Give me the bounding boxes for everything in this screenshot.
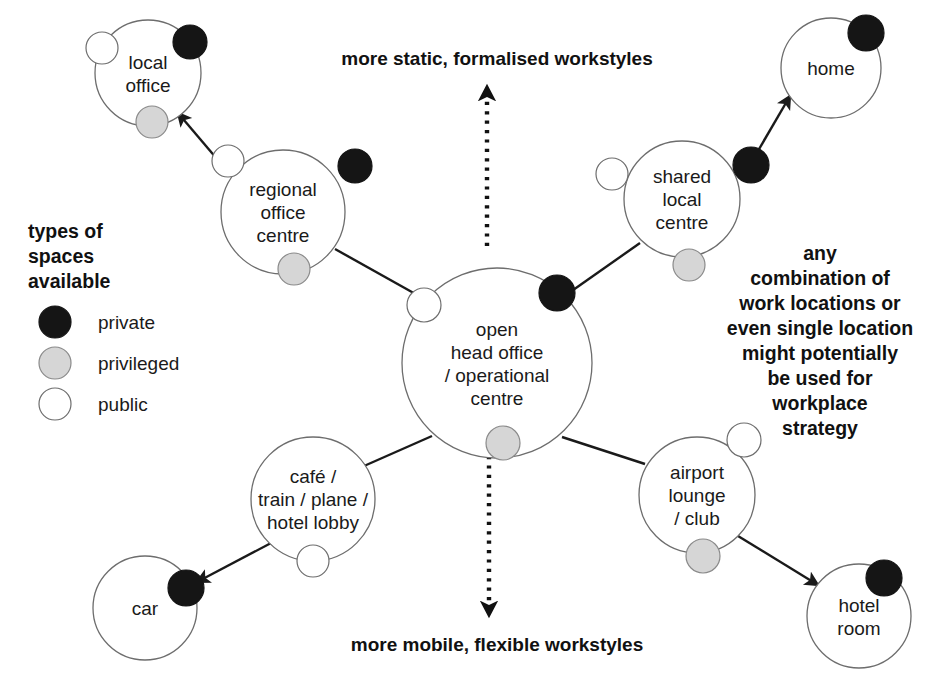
legend-title-line-2: spaces [28,245,94,267]
legend-title-line-3: available [28,270,111,292]
side-note-line-6: be used for [767,367,873,389]
legend-item-private: private [39,306,155,338]
node-label-airport-lounge-club-line-1: airport [670,462,725,483]
node-label-airport-lounge-club-line-2: lounge [668,485,725,506]
connector-centre-to-cafe [364,436,432,466]
side-note-line-7: workplace [771,392,868,414]
space-dot-private-icon [168,570,204,606]
legend-label-private: private [98,312,155,333]
legend: types of spaces available private privil… [28,220,179,420]
node-open-head-office[interactable]: openhead office/ operationalcentre [402,268,592,460]
side-note-line-3: work locations or [738,292,901,314]
connector-regional-to-centre [335,249,419,296]
legend-swatch-privileged-icon [39,347,71,379]
node-hotel-room[interactable]: hotelroom [807,560,911,668]
space-dot-privileged-icon [136,106,168,138]
side-note: anycombination ofwork locations oreven s… [727,242,913,439]
legend-title-line-1: types of [28,220,103,242]
connector-airport-to-hotel [738,536,818,585]
space-dot-private-icon [173,25,207,59]
node-label-shared-local-centre-line-3: centre [656,212,709,233]
node-label-regional-office-centre-line-2: office [260,202,305,223]
legend-item-privileged: privileged [39,347,179,379]
space-dot-public-icon [407,288,441,322]
space-dot-public-icon [86,32,118,64]
node-label-local-office-line-2: office [125,75,170,96]
node-label-cafe-train-plane-hotel-lobby-line-1: café / [290,466,337,487]
node-label-regional-office-centre-line-3: centre [257,225,310,246]
node-label-cafe-train-plane-hotel-lobby-line-3: hotel lobby [267,512,359,533]
diagram-canvas: localofficeregionalofficecentreopenhead … [0,0,941,680]
side-note-line-2: combination of [750,267,890,289]
node-label-open-head-office-line-1: open [476,319,518,340]
node-label-open-head-office-line-4: centre [471,388,524,409]
legend-label-public: public [98,394,148,415]
legend-label-privileged: privileged [98,353,179,374]
space-dot-privileged-icon [686,539,720,573]
node-cafe-train-plane-hotel-lobby[interactable]: café /train / plane /hotel lobby [251,437,375,577]
space-dot-privileged-icon [673,249,705,281]
node-shared-local-centre[interactable]: sharedlocalcentre [596,141,769,281]
node-label-home-line-1: home [807,58,855,79]
node-label-shared-local-centre-line-2: local [662,189,701,210]
workstyle-diagram: localofficeregionalofficecentreopenhead … [0,0,941,680]
side-note-line-4: even single location [727,317,913,339]
side-note-line-1: any [803,242,837,264]
space-dot-private-icon [338,149,372,183]
legend-item-public: public [39,388,148,420]
space-dot-private-icon [848,15,884,51]
node-car[interactable]: car [93,556,204,660]
space-dot-public-icon [212,145,244,177]
node-local-office[interactable]: localoffice [86,20,207,138]
side-note-line-5: might potentially [742,342,898,364]
node-label-local-office-line-1: local [128,52,167,73]
space-dot-private-icon [733,147,769,183]
node-label-cafe-train-plane-hotel-lobby-line-2: train / plane / [258,489,369,510]
space-dot-privileged-icon [278,253,310,285]
space-dot-public-icon [596,158,628,190]
legend-swatch-public-icon [39,388,71,420]
node-label-regional-office-centre-line-1: regional [249,179,317,200]
connector-cafe-to-car [197,542,273,582]
space-dot-privileged-icon [486,426,520,460]
connector-shared-to-centre [566,243,640,295]
side-note-line-8: strategy [782,417,858,439]
node-label-open-head-office-line-2: head office [451,342,544,363]
space-dot-private-icon [866,560,902,596]
node-regional-office-centre[interactable]: regionalofficecentre [212,145,372,285]
space-dot-private-icon [539,275,575,311]
caption-bottom: more mobile, flexible workstyles [351,634,644,655]
caption-top: more static, formalised workstyles [341,48,653,69]
node-label-open-head-office-line-3: / operational [445,365,550,386]
node-home[interactable]: home [781,15,884,118]
node-airport-lounge-club[interactable]: airportlounge/ club [639,423,761,573]
node-label-shared-local-centre-line-1: shared [653,166,711,187]
legend-swatch-private-icon [39,306,71,338]
space-dot-public-icon [297,545,329,577]
space-dot-public-icon [727,423,761,457]
node-label-hotel-room-line-1: hotel [838,595,879,616]
node-label-hotel-room-line-2: room [837,618,880,639]
node-label-car-line-1: car [132,598,159,619]
node-label-airport-lounge-club-line-3: / club [674,508,719,529]
connector-centre-to-airport [562,437,645,464]
